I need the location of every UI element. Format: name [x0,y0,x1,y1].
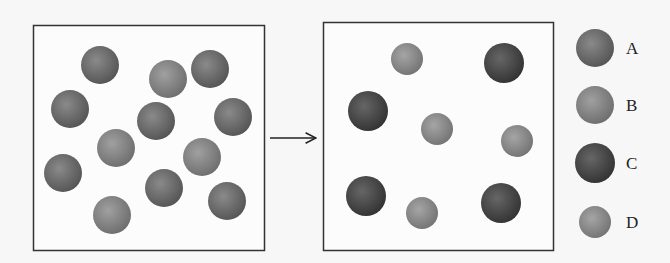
particle-a [191,50,229,88]
legend-swatch-a [576,29,614,67]
particle-a [145,169,183,207]
particle-a [51,90,89,128]
particle-b [183,138,221,176]
legend-label-a: A [626,40,638,57]
particle-d [406,197,438,229]
particle-d [391,43,423,75]
particle-c [346,176,386,216]
particle-a [44,154,82,192]
legend-label-d: D [626,214,638,231]
legend-swatch-b [576,86,614,124]
particle-a [137,102,175,140]
legend-label-c: C [626,155,637,172]
legend-swatch-c [575,143,615,183]
particle-d [421,113,453,145]
particle-c [348,91,388,131]
particle-d [501,125,533,157]
diagram-canvas [0,0,670,263]
particle-a [214,98,252,136]
legend-label-b: B [626,97,637,114]
reaction-diagram: A B C D [0,0,670,263]
particle-b [93,196,131,234]
particle-a [208,182,246,220]
particle-c [484,43,524,83]
legend-swatch-d [579,206,611,238]
particle-c [481,183,521,223]
particle-b [97,129,135,167]
particle-b [149,60,187,98]
particle-a [81,46,119,84]
